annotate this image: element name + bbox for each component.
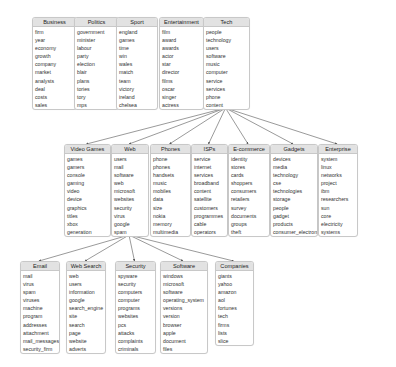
edge-tech-to-ecommerce — [226, 108, 249, 144]
topic-word: slice — [218, 337, 253, 345]
topic-word: lists — [218, 329, 253, 337]
topic-word: actress — [162, 101, 203, 109]
topic-word: graphics — [67, 204, 110, 212]
topic-word: site — [69, 312, 105, 320]
topic-word: analysts — [35, 77, 76, 85]
topic-word: amazon — [218, 288, 253, 296]
topic-word: document — [163, 337, 207, 345]
topic-word: services — [206, 85, 249, 93]
topic-word: customers — [194, 204, 227, 212]
topic-word: oscar — [162, 85, 203, 93]
topic-word-list: mailvirusspamvirusesmachineprogramaddres… — [21, 271, 59, 353]
topic-word: devices — [273, 155, 317, 163]
topic-word: researchers — [321, 195, 357, 203]
topic-word: information — [69, 288, 105, 296]
topic-word: software — [206, 52, 249, 60]
topic-word: mail — [23, 272, 59, 280]
topic-word: aol — [218, 296, 253, 304]
topic-word: shoppers — [231, 179, 269, 187]
topic-word: attacks — [118, 329, 155, 337]
topic-box-ecommerce: E-commerce identitystorescardsshoppersco… — [228, 144, 270, 237]
edge-web-to-companies — [129, 235, 234, 261]
topic-word: versions — [163, 304, 207, 312]
topic-word: xbox — [67, 220, 110, 228]
topic-word: electricity — [321, 220, 357, 228]
topic-word: users — [69, 280, 105, 288]
topic-word: operating_system — [163, 296, 207, 304]
topic-title: E-commerce — [229, 145, 269, 154]
topic-word: websites — [118, 312, 155, 320]
topic-word: yahoo — [218, 280, 253, 288]
topic-word: addresses — [23, 321, 59, 329]
topic-word-list: governmentministerlabourpartyelectionbla… — [75, 27, 118, 109]
topic-word-list: gamesgamersconsolegamingvideodevicegraph… — [65, 154, 110, 236]
topic-word: spam — [23, 288, 59, 296]
topic-word: software — [163, 288, 207, 296]
topic-word: gaming — [67, 179, 110, 187]
topic-word: identity — [231, 155, 269, 163]
topic-word: cable — [194, 220, 227, 228]
topic-word: pcs — [118, 321, 155, 329]
topic-word: mobiles — [153, 187, 190, 195]
topic-word: core — [321, 212, 357, 220]
topic-word: firms — [218, 321, 253, 329]
topic-word: spam — [114, 228, 148, 236]
topic-word: security — [114, 204, 148, 212]
topic-box-enterprise: Enterprise systemlinuxnetworksprojectibm… — [318, 144, 358, 237]
topic-word: security_firm — [23, 345, 59, 353]
topic-word: gamers — [67, 163, 110, 171]
topic-word: groups — [231, 220, 269, 228]
topic-box-isps: ISPs serviceinternetservicesbroadbandcon… — [191, 144, 228, 237]
topic-word: documents — [231, 212, 269, 220]
topic-word: tories — [77, 85, 118, 93]
topic-box-video-games: Video Games gamesgamersconsolegamingvide… — [64, 144, 111, 237]
topic-word-list: giantsyahooamazonaolfortunestechfirmslis… — [216, 271, 253, 345]
topic-word: computer — [118, 296, 155, 304]
topic-word: technologies — [273, 187, 317, 195]
topic-word: linux — [321, 163, 357, 171]
topic-word: criminals — [118, 345, 155, 353]
topic-word-list: englandgamestimewinwalesmatchteamvictory… — [117, 27, 157, 109]
topic-word: complaints — [118, 337, 155, 345]
topic-word-list: firmyeareconomygrowthcompanymarketanalys… — [33, 27, 76, 109]
topic-word: services — [194, 171, 227, 179]
topic-word: cse — [273, 179, 317, 187]
topic-word: console — [67, 171, 110, 179]
topic-word: phone — [206, 93, 249, 101]
topic-word: awards — [162, 44, 203, 52]
topic-word: team — [119, 77, 157, 85]
topic-word: website — [69, 337, 105, 345]
topic-word-list: systemlinuxnetworksprojectibmresearchers… — [319, 154, 357, 236]
topic-word: director — [162, 68, 203, 76]
topic-word: titles — [67, 212, 110, 220]
topic-word: technology — [273, 171, 317, 179]
topic-word: websites — [114, 195, 148, 203]
topic-title: Business — [33, 18, 76, 27]
topic-word: computer — [206, 68, 249, 76]
topic-word: version — [163, 312, 207, 320]
topic-word: theft — [231, 228, 269, 236]
topic-word: data — [153, 195, 190, 203]
topic-box-business: Business firmyeareconomygrowthcompanymar… — [32, 17, 77, 110]
topic-word: web — [114, 179, 148, 187]
topic-word: handsets — [153, 171, 190, 179]
topic-word: security — [118, 280, 155, 288]
topic-word: giants — [218, 272, 253, 280]
topic-word: microsoft — [163, 280, 207, 288]
topic-word: singer — [162, 93, 203, 101]
topic-word: service — [194, 155, 227, 163]
topic-box-web-search: Web Search webusersinformationgooglesear… — [66, 261, 106, 354]
topic-word: program — [23, 312, 59, 320]
topic-box-software: Software windowsmicrosoftsoftwareoperati… — [160, 261, 208, 354]
topic-word: files — [163, 345, 207, 353]
topic-title: Web — [112, 145, 148, 154]
topic-word: people — [206, 28, 249, 36]
topic-word: tech — [218, 312, 253, 320]
topic-word: firm — [35, 28, 76, 36]
topic-word: content — [194, 187, 227, 195]
edge-tech-to-gadgets — [226, 108, 294, 144]
topic-box-companies: Companies giantsyahooamazonaolfortuneste… — [215, 261, 254, 346]
topic-word: games — [119, 36, 157, 44]
topic-word: cards — [231, 171, 269, 179]
topic-word: market — [35, 68, 76, 76]
